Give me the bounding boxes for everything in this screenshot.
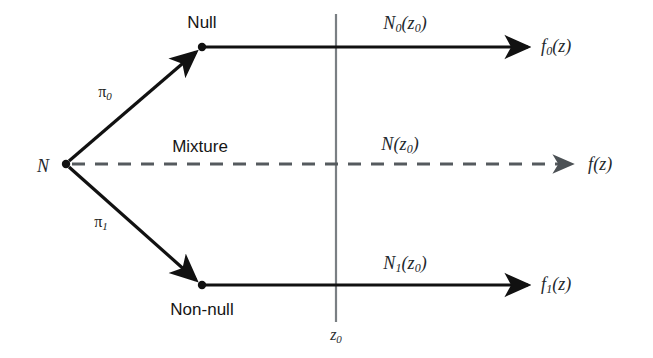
figure-canvas: N Null Non-null Mixture π0 π1 N0(z0) N(z… — [0, 0, 653, 358]
count-label-mixture: N(z0) — [381, 135, 418, 155]
count-label-null: N0(z0) — [383, 14, 426, 34]
edge-label-pi-nonnull: π1 — [94, 214, 108, 232]
node-label-mixture: Mixture — [172, 138, 228, 155]
edge-label-pi-null: π0 — [98, 84, 112, 102]
node-label-source: N — [37, 157, 49, 175]
node-dot-null — [198, 43, 206, 51]
output-label-f1: f1(z) — [541, 275, 571, 295]
node-dot-nonnull — [198, 281, 206, 289]
output-label-f: f(z) — [588, 155, 612, 175]
output-label-f0: f0(z) — [541, 37, 571, 57]
edge-source-to-nonnull — [69, 167, 196, 280]
count-label-nonnull: N1(z0) — [383, 254, 426, 274]
node-label-null: Null — [187, 14, 216, 31]
axis-label-threshold: z0 — [330, 327, 342, 345]
node-dot-source — [62, 160, 70, 168]
node-label-nonnull: Non-null — [170, 301, 233, 318]
